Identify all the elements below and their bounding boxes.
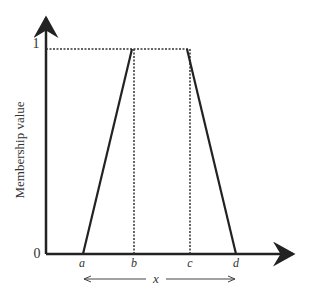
x-tick-d: d <box>233 256 240 270</box>
membership-diagram: 1 0 Membership value a b c d x <box>0 0 309 295</box>
x-tick-b: b <box>131 256 137 270</box>
y-axis-label: Membership value <box>12 101 27 198</box>
x-tick-a: a <box>79 256 85 270</box>
membership-curve <box>83 49 132 254</box>
x-tick-c: c <box>187 256 193 270</box>
y-tick-one: 1 <box>33 36 40 51</box>
membership-curve-right <box>187 49 236 254</box>
x-variable-label: x <box>152 271 159 286</box>
y-tick-zero: 0 <box>34 246 41 261</box>
